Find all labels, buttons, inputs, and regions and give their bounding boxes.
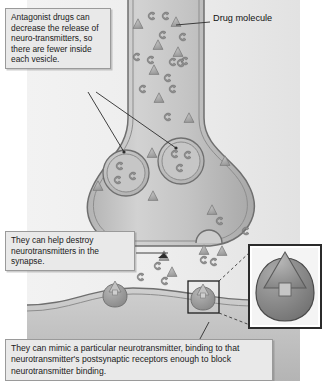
callout-mimic-neurotransmitter: They can mimic a particular neurotransmi… (5, 339, 273, 381)
inset-magnified-receptor (249, 245, 321, 328)
vesicle-right (158, 138, 204, 184)
callout-destroy-neurotransmitters: They can help destroy neurotransmitters … (5, 231, 135, 271)
vesicle-left (103, 150, 149, 196)
synapse-diagram-figure: Antagonist drugs can decrease the releas… (0, 0, 323, 381)
callout-decrease-release: Antagonist drugs can decrease the releas… (5, 8, 111, 69)
label-drug-molecule: Drug molecule (213, 13, 272, 24)
